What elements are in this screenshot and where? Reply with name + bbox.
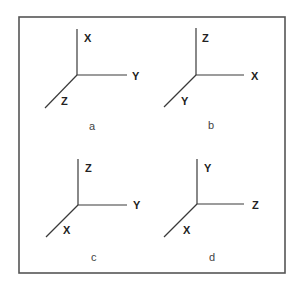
diag-axis-label: X [63,224,71,236]
axes-orientation-figure: XYZaZXYbZYXcYZXd [0,0,297,290]
panel-caption: c [91,251,97,263]
diag-axis-label: Z [61,95,68,107]
panel-caption: a [89,120,96,132]
right-axis-label: Y [132,70,140,82]
panels-group: XYZaZXYbZYXcYZXd [45,28,259,263]
up-axis-label: Z [202,32,209,44]
diag-axis-label: X [183,224,191,236]
diagonal-axis-line [164,204,197,237]
up-axis-label: X [84,32,92,44]
right-axis-label: X [251,70,259,82]
figure-frame [19,17,285,273]
up-axis-label: Z [85,162,92,174]
panel-caption: d [209,251,215,263]
axis-panel-b: ZXYb [164,28,259,131]
diagonal-axis-line [46,205,78,237]
diag-axis-label: Y [181,95,189,107]
axis-panel-d: YZXd [164,159,259,263]
up-axis-label: Y [204,162,212,174]
diagonal-axis-line [164,75,196,107]
panel-caption: b [208,119,214,131]
axis-panel-a: XYZa [45,29,140,132]
axis-panel-c: ZYXc [46,159,141,263]
right-axis-label: Y [133,199,141,211]
right-axis-label: Z [252,199,259,211]
